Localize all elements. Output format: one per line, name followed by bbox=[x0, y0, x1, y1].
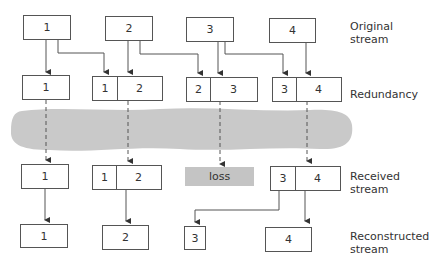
reconstructed-packet-3: 3 bbox=[184, 226, 206, 250]
network-band bbox=[11, 108, 352, 151]
reconstructed-packet-1: 1 bbox=[20, 224, 68, 248]
original-packet-3: 3 bbox=[186, 17, 234, 42]
redundancy-packet-1: 1 bbox=[22, 75, 70, 100]
received-packet-1: 1 bbox=[21, 164, 69, 189]
label-redundancy: Redundancy bbox=[350, 88, 418, 101]
reconstructed-packet-2: 2 bbox=[102, 225, 149, 250]
redundancy-packet-4: 3 4 bbox=[272, 77, 342, 102]
label-line: Original bbox=[350, 20, 393, 33]
label-line: Reconstructed bbox=[350, 230, 429, 243]
original-packet-4: 4 bbox=[269, 18, 316, 43]
redundant-part: 3 bbox=[273, 78, 296, 101]
lost-packet: loss bbox=[185, 167, 254, 186]
redundancy-packet-3: 2 3 bbox=[186, 77, 258, 102]
original-packet-1: 1 bbox=[23, 15, 71, 40]
redundant-part: 2 bbox=[187, 78, 210, 101]
received-packet-4: 3 4 bbox=[270, 166, 341, 191]
received-packet-2: 1 2 bbox=[92, 165, 162, 190]
original-packet-2: 2 bbox=[105, 16, 153, 41]
redundant-part: 3 bbox=[271, 167, 295, 190]
primary-part: 2 bbox=[116, 166, 161, 189]
label-line: stream bbox=[350, 183, 400, 196]
label-received-stream: Received stream bbox=[350, 170, 400, 196]
label-line: Received bbox=[350, 170, 400, 183]
reconstructed-packet-4: 4 bbox=[265, 227, 312, 252]
primary-part: 4 bbox=[295, 167, 340, 190]
label-line: stream bbox=[350, 243, 429, 256]
label-line: stream bbox=[350, 33, 393, 46]
primary-part: 2 bbox=[117, 77, 162, 100]
label-original-stream: Original stream bbox=[350, 20, 393, 46]
redundancy-packet-2: 1 2 bbox=[92, 76, 163, 101]
redundant-part: 1 bbox=[93, 77, 117, 100]
label-reconstructed-stream: Reconstructed stream bbox=[350, 230, 429, 256]
redundant-part: 1 bbox=[93, 166, 116, 189]
primary-part: 3 bbox=[210, 78, 257, 101]
primary-part: 4 bbox=[296, 78, 341, 101]
